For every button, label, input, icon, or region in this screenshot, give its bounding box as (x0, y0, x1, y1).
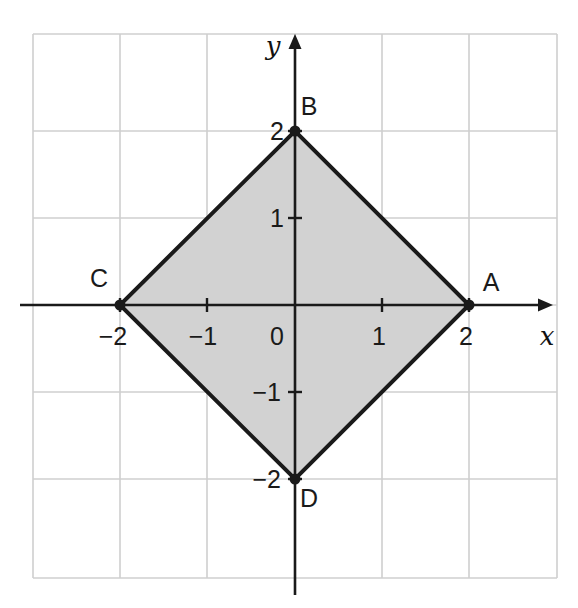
y-tick-label-neg1: −1 (252, 378, 281, 406)
x-axis-label: x (540, 321, 555, 351)
y-axis-label: y (265, 31, 281, 61)
point-label-c: C (90, 264, 108, 292)
coordinate-plane-svg: −2 −1 0 1 2 −2 −1 1 2 A B C D x y (0, 0, 578, 608)
x-tick-label-1: 1 (372, 322, 386, 350)
coordinate-figure: −2 −1 0 1 2 −2 −1 1 2 A B C D x y (0, 0, 578, 608)
y-tick-label-1: 1 (270, 204, 284, 232)
x-tick-label-neg2: −2 (99, 322, 128, 350)
point-label-d: D (300, 484, 318, 512)
vertex-dot-d (290, 474, 301, 485)
point-label-b: B (301, 92, 318, 120)
x-tick-label-neg1: −1 (189, 322, 218, 350)
point-label-a: A (483, 268, 500, 296)
vertex-dot-b (290, 126, 301, 137)
x-tick-label-2: 2 (459, 322, 473, 350)
origin-label: 0 (270, 322, 284, 350)
vertex-dot-a (464, 300, 475, 311)
vertex-dot-c (115, 300, 126, 311)
y-tick-label-neg2: −2 (252, 465, 281, 493)
y-tick-label-2: 2 (270, 117, 284, 145)
